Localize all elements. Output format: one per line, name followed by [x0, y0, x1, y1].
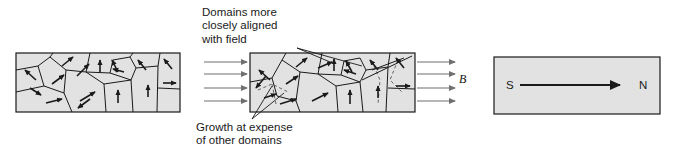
annotation-top: Domains more closely aligned with field — [202, 6, 277, 46]
diagram-canvas — [0, 0, 674, 154]
field-label-B: B — [459, 72, 466, 87]
panel-unmagnetized — [16, 53, 180, 112]
annotation-bottom: Growth at expense of other domains — [196, 121, 293, 148]
figure-root: Domains more closely aligned with field … — [0, 0, 674, 154]
panel-partially-aligned — [250, 53, 415, 112]
pole-label-south: S — [506, 79, 514, 92]
field-arrows-outgoing — [417, 62, 455, 101]
pole-label-north: N — [639, 79, 647, 92]
field-arrows-incoming — [204, 62, 247, 101]
panel-saturated — [494, 57, 660, 114]
